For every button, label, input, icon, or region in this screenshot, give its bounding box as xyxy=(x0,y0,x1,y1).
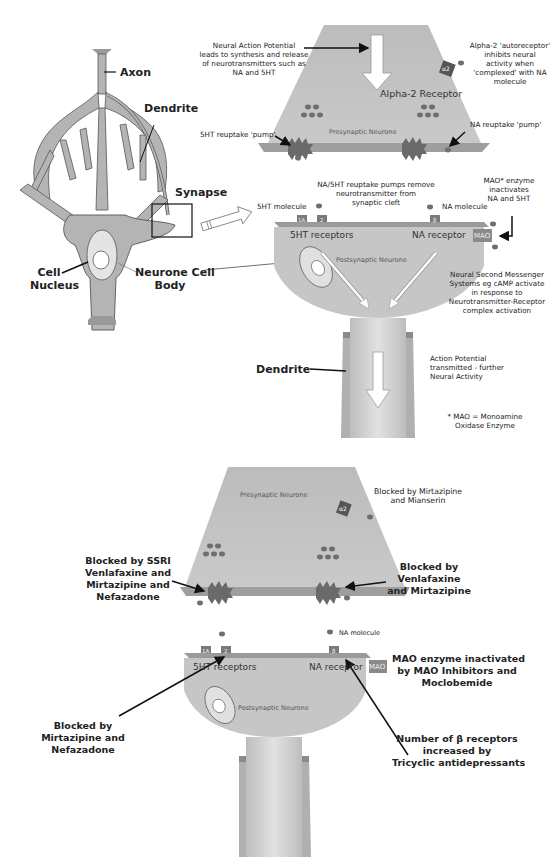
rec-2-label: 2 xyxy=(320,216,324,225)
cell-body-label: Neurone Cell Body xyxy=(135,266,205,292)
mao-footnote: * MAO = Monoamine Oxidase Enzyme xyxy=(440,412,530,430)
axon-label: Axon xyxy=(120,66,151,79)
presynaptic-label: Presynaptic Neurone xyxy=(329,128,396,137)
postsynaptic-label: Postsynaptic Neurone xyxy=(336,256,407,265)
presynaptic-label-bottom: Presynaptic Neurone xyxy=(240,491,307,500)
bottom-postsynaptic-terminal xyxy=(119,630,408,857)
rec-1a-label: 1A xyxy=(298,216,305,225)
rec-beta-label: β xyxy=(433,216,437,225)
mirtazipine-mianserin-note: Blocked by Mirtazipine and Mianserin xyxy=(368,487,468,505)
5ht-receptors-label: 5HT receptors xyxy=(290,231,354,240)
alpha2-autoreceptor-note: Alpha-2 'autoreceptor' inhibits neural a… xyxy=(462,41,558,86)
second-messenger-note: Neural Second Messenger Systems eg cAMP … xyxy=(438,270,556,315)
5ht-receptors-label-bottom: 5HT receptors xyxy=(193,663,257,672)
synapse-label: Synapse xyxy=(175,186,227,199)
zoom-arrow-icon xyxy=(199,203,254,235)
5ht-pump-label: 5HT reuptake 'pump' xyxy=(200,130,275,139)
alpha2-receptor-label: Alpha-2 Receptor xyxy=(380,89,462,98)
na-molecule-label: NA molecule xyxy=(442,202,487,211)
alpha2-glyph: α2 xyxy=(442,64,450,73)
dendrite-stem-label: Dendrite xyxy=(256,363,310,376)
reuptake-note: NA/5HT reuptake pumps remove neurotransm… xyxy=(316,180,436,207)
na-molecule-label-bottom: NA molecule xyxy=(339,629,380,638)
mao-note: MAO* enzyme inactivates NA and 5HT xyxy=(480,176,538,203)
na-receptor-label: NA receptor xyxy=(412,231,466,240)
na-pump-block-note: Blocked by Venlafaxine and Mirtazipine xyxy=(382,561,476,597)
ap-transmitted-note: Action Potential transmitted - further N… xyxy=(430,354,504,381)
na-pump-label: NA reuptake 'pump' xyxy=(470,120,541,129)
mao-box-label: MAO xyxy=(474,232,490,241)
postsynaptic-label-bottom: Postsynaptic Neurone xyxy=(238,704,309,713)
alpha2-glyph-bottom: α2 xyxy=(339,504,347,513)
rec-beta-label-bottom: β xyxy=(332,647,336,656)
mao-box-label-bottom: MAO xyxy=(369,663,385,672)
action-potential-note: Neural Action Potential leads to synthes… xyxy=(198,41,310,77)
mao-inhibit-note: MAO enzyme inactivated by MAO Inhibitors… xyxy=(392,653,522,689)
ht2-block-note: Blocked by Mirtazipine and Nefazadone xyxy=(38,720,128,756)
cell-nucleus-label: Cell Nucleus xyxy=(30,266,68,292)
ssri-block-note: Blocked by SSRI Venlafaxine and Mirtazip… xyxy=(78,555,178,603)
rec-1a-label-bottom: 1A xyxy=(202,647,209,656)
beta-increase-note: Number of β receptors increased by Tricy… xyxy=(392,733,522,769)
na-receptor-label-bottom: NA receptor xyxy=(309,663,363,672)
rec-2-label-bottom: 2 xyxy=(224,647,228,656)
5ht-molecule-label: 5HT molecule xyxy=(257,202,306,211)
dendrite-label: Dendrite xyxy=(144,102,198,115)
